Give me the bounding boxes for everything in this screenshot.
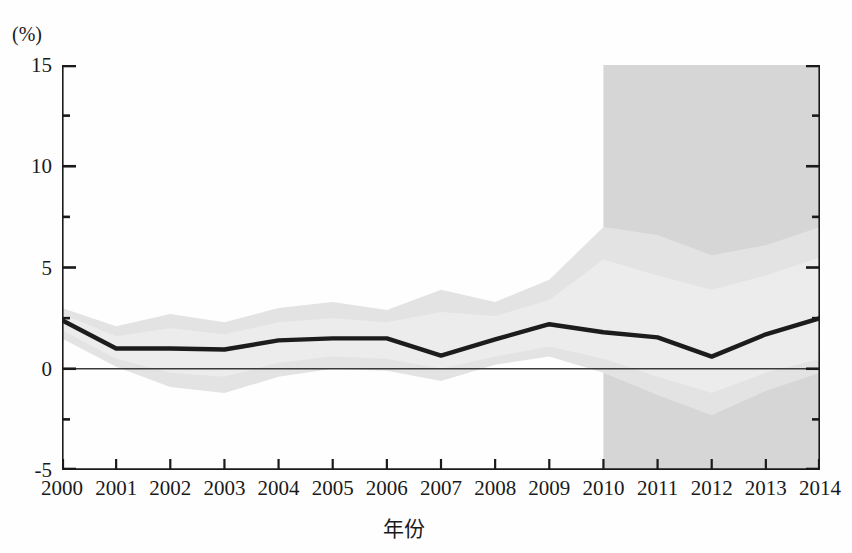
x-axis-title: 年份 (0, 512, 852, 542)
x-axis-tick-label: 2005 (312, 478, 354, 499)
x-axis-tick-label: 2011 (637, 478, 678, 499)
x-axis-tick-label: 2000 (41, 478, 83, 499)
x-axis-tick-label: 2014 (799, 478, 841, 499)
y-axis-tick-labels: 151050-5 (0, 0, 52, 553)
plot-area (62, 65, 820, 470)
x-axis-tick-label: 2006 (366, 478, 408, 499)
x-axis-title-text: 年份 (383, 517, 425, 541)
y-axis-tick-label: 5 (6, 257, 52, 278)
x-axis-tick-label: 2008 (474, 478, 516, 499)
x-axis-tick-label: 2002 (149, 478, 191, 499)
chart-canvas (62, 65, 820, 470)
x-axis-tick-label: 2013 (745, 478, 787, 499)
x-axis-tick-label: 2010 (582, 478, 624, 499)
y-axis-ticks-left (62, 66, 76, 469)
x-axis-tick-label: 2001 (95, 478, 137, 499)
x-axis-tick-label: 2007 (420, 478, 462, 499)
x-axis-tick-label: 2003 (203, 478, 245, 499)
y-axis-tick-label: 15 (6, 55, 52, 76)
y-axis-tick-label: 0 (6, 358, 52, 379)
chart-figure: (%) 151050-5 200020012002200320042005200… (0, 0, 852, 553)
x-axis-tick-label: 2012 (691, 478, 733, 499)
x-axis-tick-label: 2009 (528, 478, 570, 499)
x-axis-tick-labels: 2000200120022003200420052006200720082009… (0, 478, 852, 510)
y-axis-tick-label: 10 (6, 156, 52, 177)
x-axis-tick-label: 2004 (258, 478, 300, 499)
